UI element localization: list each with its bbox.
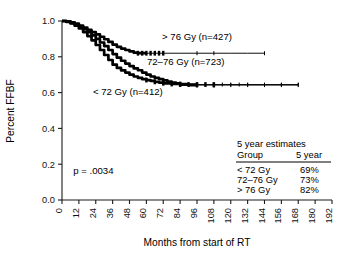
x-tick-label: 0 bbox=[54, 208, 64, 213]
x-tick-label: 36 bbox=[105, 208, 115, 218]
legend-title: 5 year estimates bbox=[237, 138, 306, 149]
x-tick-label: 12 bbox=[71, 208, 81, 218]
curve-label-mid: 72–76 Gy (n=723) bbox=[147, 56, 225, 67]
curve-label-low: < 72 Gy (n=412) bbox=[93, 86, 163, 97]
x-tick-label: 108 bbox=[206, 208, 216, 224]
x-tick-label: 156 bbox=[273, 208, 283, 224]
x-tick-label: 84 bbox=[172, 208, 182, 218]
y-axis-title: Percent FFBF bbox=[5, 79, 16, 142]
x-tick-label: 120 bbox=[223, 208, 233, 224]
x-tick-label: 96 bbox=[189, 208, 199, 218]
legend-col-fiveyear: 5 year bbox=[296, 149, 322, 160]
legend-row-2-value: 82% bbox=[300, 184, 319, 195]
chart-annotations: p = .0034> 76 Gy (n=427)72–76 Gy (n=723)… bbox=[73, 31, 232, 176]
y-tick-label: 0.4 bbox=[42, 124, 55, 134]
curve-label-high: > 76 Gy (n=427) bbox=[162, 31, 232, 42]
y-tick-label: 0.8 bbox=[42, 52, 55, 62]
x-tick-label: 168 bbox=[290, 208, 300, 224]
x-tick-label: 60 bbox=[138, 208, 148, 218]
legend-table: 5 year estimates Group 5 year < 72 Gy 69… bbox=[236, 138, 331, 195]
y-tick-label: 0.2 bbox=[42, 160, 55, 170]
x-tick-label: 144 bbox=[257, 208, 267, 224]
legend-row-2-group: > 76 Gy bbox=[237, 184, 270, 195]
x-axis-ticks: 0122436486072849610812013214415616818019… bbox=[54, 200, 334, 224]
p-value: p = .0034 bbox=[73, 165, 114, 176]
y-tick-label: 0.6 bbox=[42, 88, 55, 98]
x-tick-label: 132 bbox=[240, 208, 250, 224]
y-tick-label: 0.0 bbox=[42, 195, 55, 205]
x-tick-label: 180 bbox=[307, 208, 317, 224]
chart-canvas: 0.00.20.40.60.81.0 012243648607284961081… bbox=[0, 0, 347, 254]
x-tick-label: 72 bbox=[155, 208, 165, 218]
x-axis-title: Months from start of RT bbox=[144, 237, 251, 248]
x-tick-label: 192 bbox=[324, 208, 334, 224]
x-tick-label: 24 bbox=[88, 208, 98, 218]
kaplan-meier-chart: 0.00.20.40.60.81.0 012243648607284961081… bbox=[0, 0, 347, 254]
legend-col-group: Group bbox=[237, 149, 263, 160]
y-axis-ticks: 0.00.20.40.60.81.0 bbox=[42, 16, 62, 205]
y-tick-label: 1.0 bbox=[42, 16, 55, 26]
x-tick-label: 48 bbox=[122, 208, 132, 218]
